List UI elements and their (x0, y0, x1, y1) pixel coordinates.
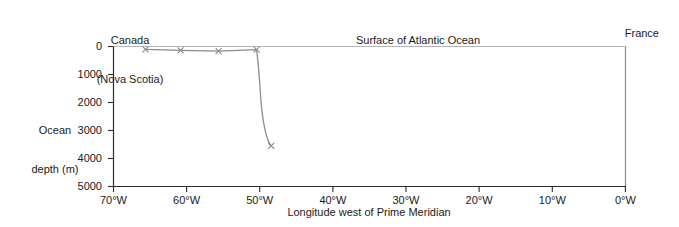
label-canada-line2: (Nova Scotia) (97, 73, 164, 86)
ocean-depth-chart: 0 1000 2000 3000 4000 5000 70°W 60°W 50°… (0, 0, 679, 227)
x-tick-label-10w: 10°W (522, 195, 582, 206)
y-axis-title: Ocean depth (m) (20, 98, 90, 202)
x-tick-label-0w: 0°W (595, 195, 655, 206)
x-tick-label-30w: 30°W (376, 195, 436, 206)
y-tick-label-1000: 1000 (58, 69, 102, 80)
y-axis-title-line2: depth (m) (20, 163, 90, 176)
x-tick-label-70w: 70°W (84, 195, 144, 206)
x-tick-label-20w: 20°W (449, 195, 509, 206)
y-tick-label-0: 0 (58, 41, 102, 52)
seafloor-profile-line (146, 49, 272, 146)
label-france: France (625, 27, 659, 40)
x-axis-title: Longitude west of Prime Meridian (287, 206, 450, 219)
label-canada: Canada (Nova Scotia) (97, 8, 164, 112)
x-tick-label-60w: 60°W (157, 195, 217, 206)
label-ocean-surface: Surface of Atlantic Ocean (356, 34, 480, 47)
x-tick-label-40w: 40°W (303, 195, 363, 206)
label-canada-line1: Canada (97, 34, 164, 47)
y-axis-title-line1: Ocean (20, 124, 90, 137)
x-tick-label-50w: 50°W (230, 195, 290, 206)
